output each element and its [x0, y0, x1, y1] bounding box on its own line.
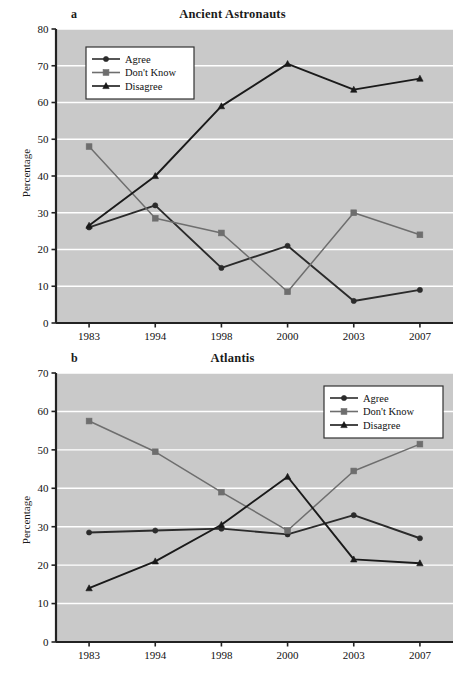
data-point — [351, 210, 357, 216]
legend-marker-circle — [103, 56, 108, 61]
legend-marker-circle — [341, 395, 346, 400]
x-tick-label: 2003 — [343, 649, 366, 661]
legend-label: Agree — [363, 393, 389, 404]
y-tick-label: 0 — [43, 317, 49, 329]
data-point — [152, 449, 158, 455]
data-point — [219, 230, 225, 236]
y-tick-label: 50 — [38, 444, 50, 456]
panel-a-plot: 0102030405060708019831994199820002003200… — [0, 0, 465, 346]
y-tick-label: 50 — [38, 133, 50, 145]
legend-label: Agree — [125, 54, 151, 65]
y-tick-label: 30 — [38, 521, 50, 533]
data-point — [152, 215, 158, 221]
x-tick-label: 1998 — [210, 649, 233, 661]
panel-a: a Ancient Astronauts Percentage 01020304… — [0, 0, 465, 346]
y-tick-label: 80 — [38, 23, 50, 35]
y-tick-label: 70 — [38, 367, 50, 379]
y-tick-label: 10 — [38, 280, 50, 292]
y-tick-label: 60 — [38, 405, 50, 417]
y-tick-label: 40 — [38, 482, 50, 494]
x-tick-label: 2003 — [343, 330, 366, 342]
x-tick-label: 1994 — [144, 330, 167, 342]
y-axis: 010203040506070 — [38, 367, 57, 648]
x-tick-label: 1983 — [78, 649, 101, 661]
legend-marker-square — [341, 409, 347, 415]
legend: AgreeDon't KnowDisagree — [86, 47, 194, 99]
x-axis: 198319941998200020032007 — [56, 323, 453, 342]
data-point — [417, 287, 422, 292]
y-tick-label: 40 — [38, 170, 50, 182]
legend-label: Disagree — [125, 81, 163, 92]
y-tick-label: 0 — [43, 636, 49, 648]
panel-b-svg: 010203040506070198319941998200020032007A… — [0, 346, 465, 693]
x-tick-label: 2000 — [277, 649, 300, 661]
data-point — [351, 513, 356, 518]
y-tick-label: 70 — [38, 60, 50, 72]
y-tick-label: 20 — [38, 559, 50, 571]
y-tick-label: 30 — [38, 207, 50, 219]
data-point — [219, 265, 224, 270]
y-tick-label: 10 — [38, 597, 50, 609]
x-tick-label: 1983 — [78, 330, 101, 342]
data-point — [153, 528, 158, 533]
x-axis: 198319941998200020032007 — [56, 642, 453, 661]
legend-label: Don't Know — [363, 406, 415, 417]
data-point — [417, 536, 422, 541]
panel-b-plot: 010203040506070198319941998200020032007A… — [0, 346, 465, 693]
panel-b: b Atlantis Percentage 010203040506070198… — [0, 346, 465, 693]
x-tick-label: 2000 — [277, 330, 300, 342]
data-point — [219, 489, 225, 495]
x-tick-label: 2007 — [409, 330, 432, 342]
y-tick-label: 60 — [38, 96, 50, 108]
legend-marker-square — [103, 70, 109, 76]
data-point — [417, 441, 423, 447]
panel-a-svg: 0102030405060708019831994199820002003200… — [0, 0, 465, 346]
legend-label: Disagree — [363, 420, 401, 431]
data-point — [351, 468, 357, 474]
x-tick-label: 1998 — [210, 330, 233, 342]
x-tick-label: 2007 — [409, 649, 432, 661]
legend-label: Don't Know — [125, 67, 177, 78]
y-tick-label: 20 — [38, 243, 50, 255]
data-point — [86, 530, 91, 535]
data-point — [285, 289, 291, 295]
y-axis: 01020304050607080 — [38, 23, 57, 329]
data-point — [86, 418, 92, 424]
data-point — [285, 243, 290, 248]
figure-two-panel-line-charts: a Ancient Astronauts Percentage 01020304… — [0, 0, 465, 693]
data-point — [351, 298, 356, 303]
data-point — [417, 232, 423, 238]
data-point — [285, 528, 291, 534]
legend: AgreeDon't KnowDisagree — [324, 386, 443, 438]
data-point — [86, 144, 92, 150]
x-tick-label: 1994 — [144, 649, 167, 661]
data-point — [153, 203, 158, 208]
